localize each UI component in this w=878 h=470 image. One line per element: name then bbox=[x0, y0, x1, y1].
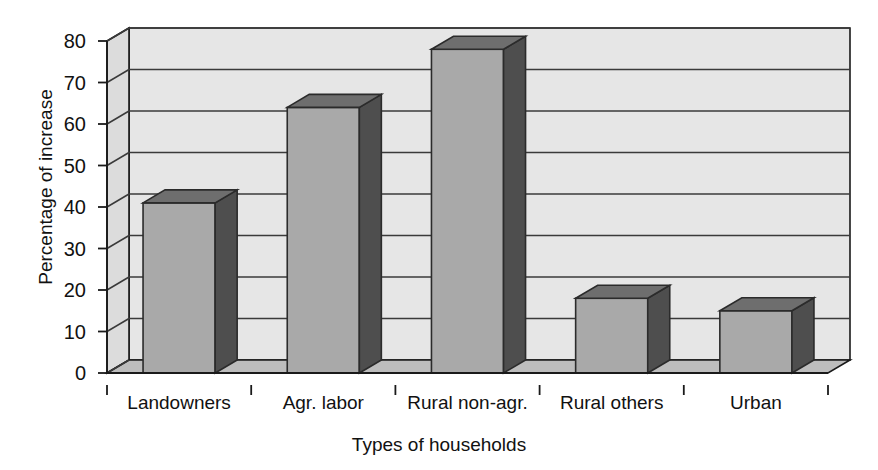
bar-front-face bbox=[287, 107, 359, 373]
bar-front-face bbox=[720, 311, 792, 373]
bar-4 bbox=[576, 285, 670, 373]
bar-side-face bbox=[648, 285, 670, 373]
bar-5 bbox=[720, 298, 814, 373]
bar-front-face bbox=[576, 298, 648, 373]
bar-side-face bbox=[504, 36, 526, 373]
bar-1 bbox=[143, 190, 237, 373]
bar-front-face bbox=[431, 49, 503, 373]
bar-side-face bbox=[215, 190, 237, 373]
plot-area bbox=[0, 0, 878, 470]
bar-front-face bbox=[143, 203, 215, 373]
bar-side-face bbox=[359, 94, 381, 373]
bar-2 bbox=[287, 94, 381, 373]
bar-chart: Percentage of increase Types of househol… bbox=[0, 0, 878, 470]
bar-3 bbox=[431, 36, 525, 373]
